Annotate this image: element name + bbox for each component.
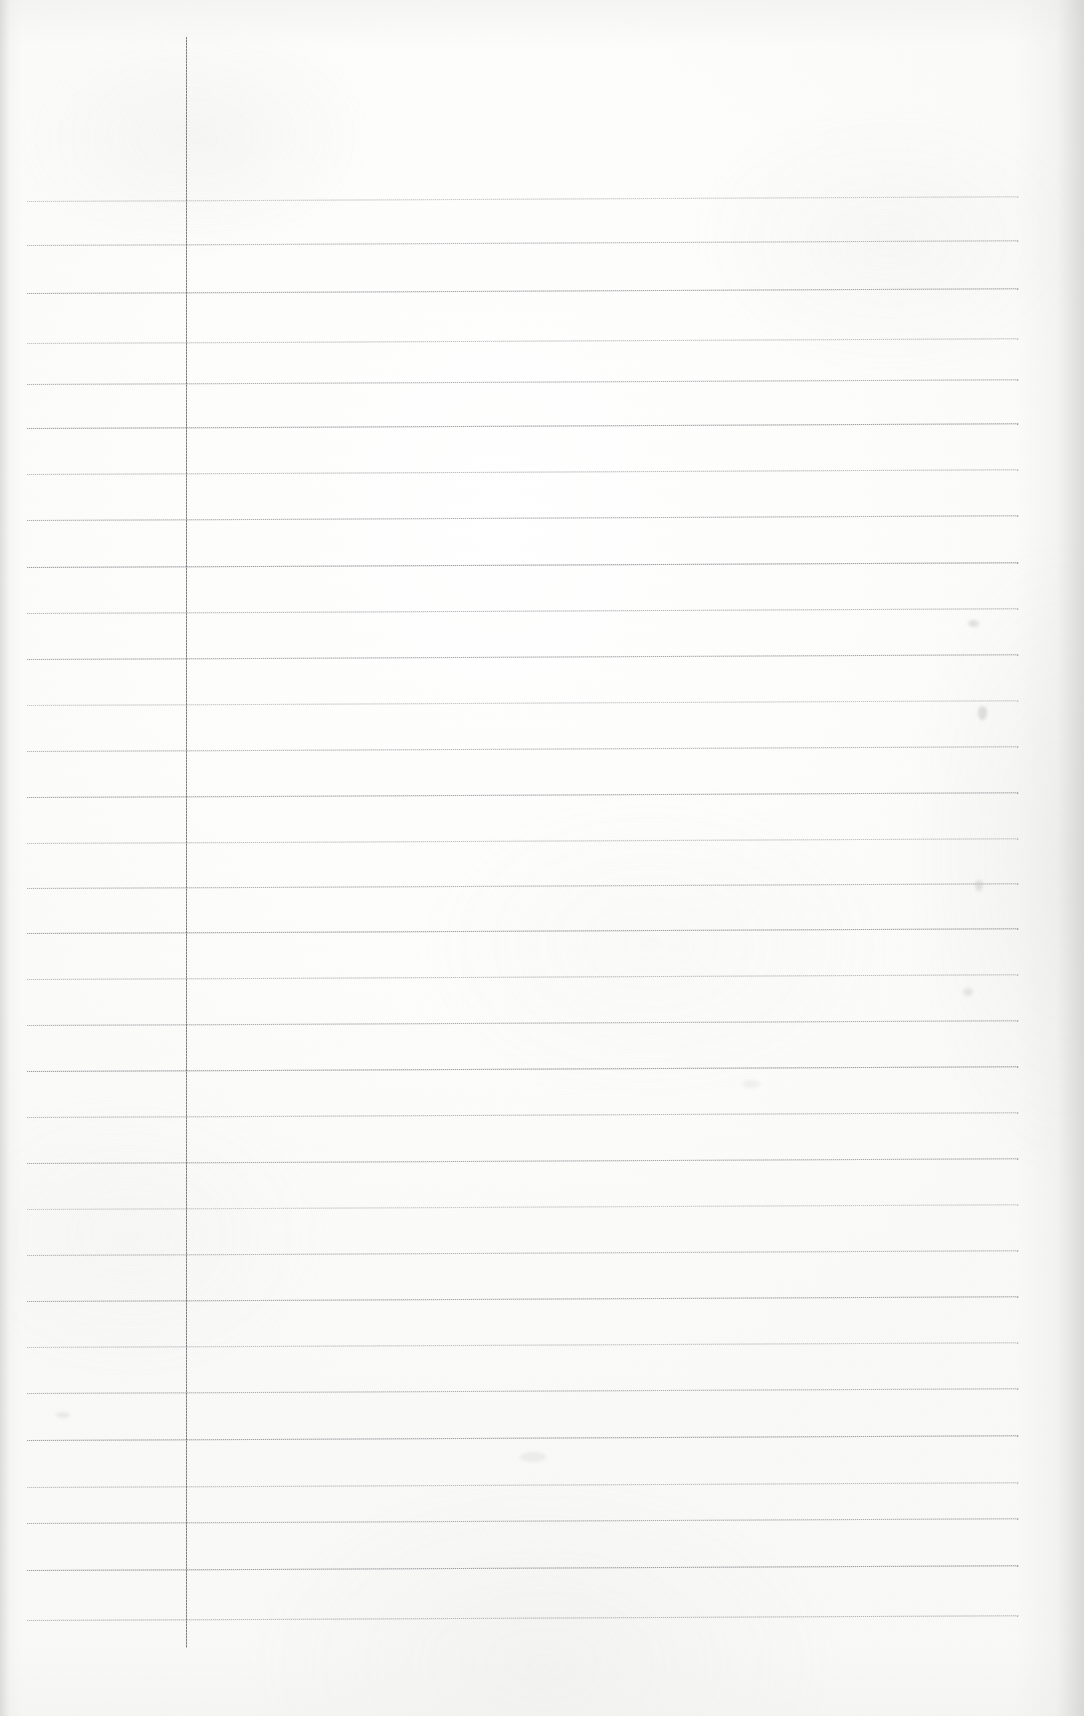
scanned-page (0, 0, 1084, 1716)
header-area (0, 0, 1084, 195)
ruled-writing-area[interactable] (188, 181, 1019, 1624)
left-margin-column[interactable] (22, 181, 184, 1624)
footer-area (0, 1626, 1084, 1716)
vertical-margin-line (186, 37, 187, 1648)
